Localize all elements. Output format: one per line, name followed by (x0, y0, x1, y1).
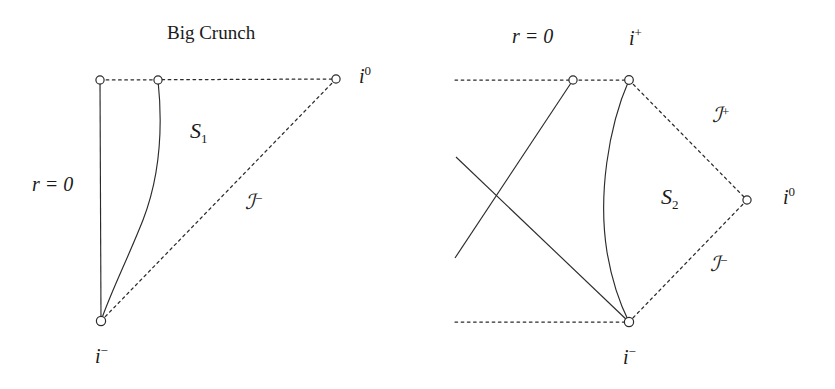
crunch-mid-node (154, 76, 162, 84)
right-future-timelike-infinity-label: i+ (629, 26, 642, 48)
big-crunch-heading: Big Crunch (167, 23, 255, 42)
big-crunch-line (100, 79, 336, 80)
right-surface-subscript: 2 (672, 197, 679, 212)
left-surface-label: S1 (190, 120, 208, 145)
past-timelike-infinity-node (624, 317, 633, 326)
right-diagram-group (455, 76, 751, 327)
right-past-null-infinity-label: ℐ− (710, 254, 727, 275)
s1-curve (101, 80, 160, 321)
right-spatial-infinity-superscript: 0 (789, 184, 796, 199)
right-future-null-infinity-label: ℐ+ (712, 105, 729, 126)
past-null-infinity-line (629, 200, 747, 322)
right-past-null-infinity-symbol: ℐ (710, 252, 720, 276)
right-past-null-infinity-superscript: − (720, 253, 727, 268)
right-radial-origin-label: r = 0 (512, 26, 553, 46)
right-past-timelike-infinity-superscript: − (629, 344, 636, 359)
ingoing-ray (455, 80, 573, 258)
left-diagram-group (96, 75, 340, 326)
future-null-infinity-line (629, 80, 747, 200)
right-future-null-infinity-superscript: + (722, 104, 729, 119)
past-null-infinity-line (101, 79, 336, 321)
left-surface-symbol: S (190, 118, 201, 143)
left-surface-subscript: 1 (201, 131, 208, 146)
right-future-null-infinity-symbol: ℐ (712, 103, 722, 127)
diagram-canvas (0, 0, 835, 389)
left-spatial-infinity-superscript: 0 (365, 63, 372, 78)
origin-top-node (569, 76, 577, 84)
left-past-null-infinity-superscript: − (255, 191, 262, 206)
right-surface-label: S2 (661, 186, 679, 211)
left-past-null-infinity-label: ℐ− (245, 192, 262, 213)
right-spatial-infinity-label: i0 (783, 185, 795, 207)
right-surface-symbol: S (661, 184, 672, 209)
s2-curve (604, 80, 629, 322)
left-past-timelike-infinity-label: i− (95, 344, 108, 366)
right-past-timelike-infinity-label: i− (623, 345, 636, 367)
right-future-timelike-infinity-superscript: + (635, 25, 642, 40)
spatial-infinity-node (332, 75, 340, 83)
outgoing-ray (456, 157, 629, 322)
left-spatial-infinity-label: i0 (359, 64, 371, 86)
past-timelike-infinity-node (96, 316, 105, 325)
future-timelike-infinity-node (625, 76, 634, 85)
crunch-left-node (96, 76, 104, 84)
spatial-infinity-node (743, 196, 751, 204)
left-past-null-infinity-symbol: ℐ (245, 190, 255, 214)
axis-line (100, 80, 101, 321)
left-past-timelike-infinity-superscript: − (101, 343, 108, 358)
left-radial-origin-label: r = 0 (32, 174, 73, 194)
conformal-diagram-figure: Big Crunch r = 0 i0 i− S1 ℐ− r = 0 i+ i0… (0, 0, 835, 389)
